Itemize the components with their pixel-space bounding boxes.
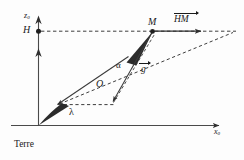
diagram-canvas (0, 0, 244, 160)
angle-alpha-label: α (116, 61, 121, 70)
point-m-label: M (148, 17, 156, 27)
figure-caption-terre: Terre (14, 140, 34, 150)
angle-lambda-label: λ (69, 107, 74, 117)
vector-hm-overbar-arrowhead (196, 11, 199, 15)
segment-o-label: O (96, 79, 103, 89)
vertical-axis-label: z0 (24, 12, 30, 21)
vector-g-overbar-arrowhead (148, 61, 151, 65)
horizontal-axis-label: x0 (214, 128, 220, 137)
point-h-dot (36, 29, 41, 34)
point-h-label: H (23, 25, 30, 35)
physics-diagram-figure: z0 x0 H M α λ O HM g Terre (0, 0, 244, 160)
angle-lambda-wedge (39, 103, 69, 125)
point-m-dot (150, 29, 155, 34)
